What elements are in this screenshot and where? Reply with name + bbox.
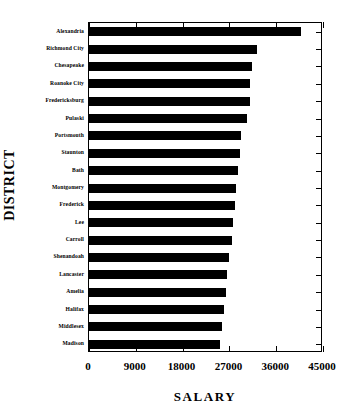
y-axis-tick	[316, 240, 322, 241]
bar	[89, 236, 232, 245]
x-axis-tick	[276, 346, 277, 352]
x-axis-tick-label: 45000	[308, 360, 336, 372]
bar	[89, 79, 250, 88]
y-axis-tick	[316, 310, 322, 311]
x-axis-tick-labels: 0900018000270003600045000	[88, 360, 322, 376]
category-label: Chesapeake	[0, 62, 84, 68]
x-axis-tick-top	[136, 22, 137, 28]
x-axis-tick-label: 9000	[124, 360, 146, 372]
category-label: Shenandoah	[0, 253, 84, 259]
x-axis-tick-top	[276, 22, 277, 28]
x-axis-tick	[229, 346, 230, 352]
bar	[89, 27, 301, 36]
bar	[89, 62, 252, 71]
category-label: Richmond City	[0, 45, 84, 51]
x-axis-tick-top	[229, 22, 230, 28]
bar	[89, 340, 220, 349]
plot-area	[88, 22, 322, 352]
x-axis-tick-top	[89, 22, 90, 28]
y-axis-tick	[316, 136, 322, 137]
y-axis-tick	[316, 153, 322, 154]
bar	[89, 288, 226, 297]
category-label: Montgomery	[0, 184, 84, 190]
bars-layer	[89, 23, 323, 353]
bar	[89, 131, 241, 140]
y-axis-tick	[316, 84, 322, 85]
category-label: Lee	[0, 219, 84, 225]
y-axis-tick	[316, 257, 322, 258]
y-axis-tick	[316, 171, 322, 172]
bar	[89, 166, 238, 175]
bar	[89, 270, 227, 279]
category-label: Roanoke City	[0, 80, 84, 86]
bar	[89, 218, 233, 227]
x-axis-tick	[89, 346, 90, 352]
x-axis-tick-label: 27000	[215, 360, 243, 372]
x-axis-tick	[136, 346, 137, 352]
y-axis-tick	[316, 292, 322, 293]
category-label: Madison	[0, 340, 84, 346]
category-label: Portsmouth	[0, 132, 84, 138]
bar-chart: DISTRICT AlexandriaRichmond CityChesapea…	[0, 0, 350, 413]
bar	[89, 45, 257, 54]
x-axis-tick-label: 0	[85, 360, 91, 372]
y-axis-tick	[316, 205, 322, 206]
y-axis-tick	[316, 344, 322, 345]
y-axis-tick	[316, 119, 322, 120]
x-axis-tick-label: 36000	[261, 360, 289, 372]
category-label: Lancaster	[0, 271, 84, 277]
category-axis-labels: AlexandriaRichmond CityChesapeakeRoanoke…	[0, 22, 84, 352]
y-axis-tick	[316, 66, 322, 67]
bar	[89, 149, 240, 158]
bar	[89, 253, 229, 262]
category-label: Amelia	[0, 288, 84, 294]
category-label: Carroll	[0, 236, 84, 242]
category-label: Pulaski	[0, 115, 84, 121]
category-label: Frederick	[0, 201, 84, 207]
y-axis-tick	[316, 223, 322, 224]
y-axis-tick	[316, 101, 322, 102]
bar	[89, 322, 222, 331]
x-axis-tick-top	[183, 22, 184, 28]
category-label: Bath	[0, 167, 84, 173]
bar	[89, 184, 236, 193]
y-axis-tick	[316, 188, 322, 189]
bar	[89, 114, 247, 123]
y-axis-tick	[316, 275, 322, 276]
y-axis-tick	[316, 49, 322, 50]
x-axis-title: SALARY	[88, 389, 322, 405]
category-label: Alexandria	[0, 28, 84, 34]
category-label: Middlesex	[0, 323, 84, 329]
x-axis-tick-top	[323, 22, 324, 28]
category-label: Halifax	[0, 306, 84, 312]
category-label: Fredericksburg	[0, 97, 84, 103]
y-axis-tick	[316, 32, 322, 33]
bar	[89, 305, 224, 314]
x-axis-tick	[183, 346, 184, 352]
x-axis-tick-label: 18000	[168, 360, 196, 372]
category-label: Staunton	[0, 149, 84, 155]
bar	[89, 201, 235, 210]
bar	[89, 97, 250, 106]
x-axis-tick	[323, 346, 324, 352]
y-axis-tick	[316, 327, 322, 328]
